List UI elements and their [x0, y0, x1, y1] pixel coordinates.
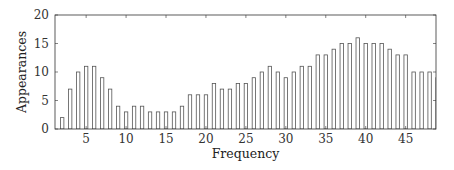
x-tick-label: 30	[278, 132, 293, 146]
bar-21	[212, 83, 215, 129]
x-tick-label: 10	[118, 132, 133, 146]
bar-19	[196, 95, 199, 129]
bar-37	[340, 44, 343, 130]
bar-18	[188, 95, 191, 129]
bar-16	[172, 112, 175, 129]
bar-11	[132, 106, 135, 129]
x-tick-label: 40	[358, 132, 373, 146]
bar-25	[244, 83, 247, 129]
bar-8	[108, 89, 111, 129]
bar-12	[140, 106, 143, 129]
bar-17	[180, 106, 183, 129]
bar-27	[260, 72, 263, 129]
bar-24	[236, 83, 239, 129]
y-tick-label: 10	[34, 65, 49, 79]
bar-13	[148, 112, 151, 129]
bar-32	[300, 66, 303, 129]
bar-39	[356, 38, 359, 129]
x-tick-label: 25	[238, 132, 253, 146]
bar-14	[156, 112, 159, 129]
bar-23	[228, 89, 231, 129]
x-tick-label: 15	[158, 132, 173, 146]
y-axis-label: Appearances	[14, 31, 29, 114]
bar-43	[388, 49, 391, 129]
x-tick-label: 35	[318, 132, 333, 146]
bar-34	[316, 55, 319, 129]
bar-22	[220, 89, 223, 129]
bar-49	[436, 78, 439, 129]
x-axis-label: Frequency	[212, 146, 281, 161]
bar-33	[308, 66, 311, 129]
bar-47	[420, 72, 423, 129]
bar-31	[292, 72, 295, 129]
bar-30	[284, 78, 287, 129]
y-tick-label: 5	[41, 94, 49, 108]
bar-6	[92, 66, 95, 129]
x-tick-label: 45	[398, 132, 413, 146]
bar-26	[252, 78, 255, 129]
bar-35	[324, 55, 327, 129]
bar-36	[332, 49, 335, 129]
bar-5	[84, 66, 87, 129]
bar-2	[60, 118, 63, 129]
bars-group	[60, 38, 439, 129]
bar-46	[412, 72, 415, 129]
bar-42	[380, 44, 383, 130]
bar-45	[404, 55, 407, 129]
bar-38	[348, 44, 351, 130]
bar-44	[396, 55, 399, 129]
bar-20	[204, 95, 207, 129]
bar-29	[276, 72, 279, 129]
bar-9	[116, 106, 119, 129]
bar-40	[364, 44, 367, 130]
bar-chart: 51015202530354045 05101520 Frequency App…	[0, 0, 454, 170]
bar-41	[372, 44, 375, 130]
bar-3	[68, 89, 71, 129]
bar-4	[76, 72, 79, 129]
bar-28	[268, 66, 271, 129]
y-tick-label: 20	[34, 8, 49, 22]
y-tick-label: 15	[34, 37, 49, 51]
bar-48	[428, 72, 431, 129]
x-tick-label: 5	[82, 132, 90, 146]
bar-7	[100, 78, 103, 129]
y-tick-label: 0	[41, 122, 49, 136]
x-tick-label: 20	[198, 132, 213, 146]
